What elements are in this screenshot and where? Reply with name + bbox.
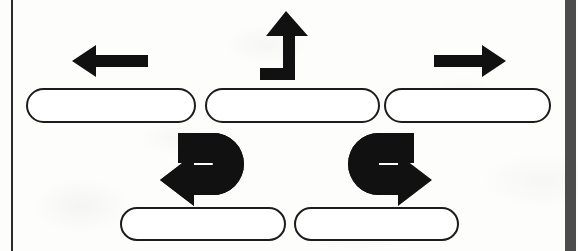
- answer-box-right[interactable]: [384, 88, 551, 123]
- answer-box-uturn-left[interactable]: [120, 207, 286, 241]
- answer-box-straight[interactable]: [205, 88, 380, 123]
- u-turn-left-icon: [156, 130, 250, 206]
- left-margin-rule: [11, 0, 13, 251]
- answer-box-uturn-right[interactable]: [294, 207, 459, 241]
- right-edge-bar: [565, 0, 576, 251]
- answer-box-left[interactable]: [26, 88, 196, 123]
- u-turn-right-icon: [342, 130, 436, 206]
- arrow-left-icon: [70, 42, 150, 80]
- worksheet-page: [0, 0, 578, 251]
- arrow-up-turn-icon: [258, 10, 314, 82]
- arrow-right-icon: [432, 42, 508, 80]
